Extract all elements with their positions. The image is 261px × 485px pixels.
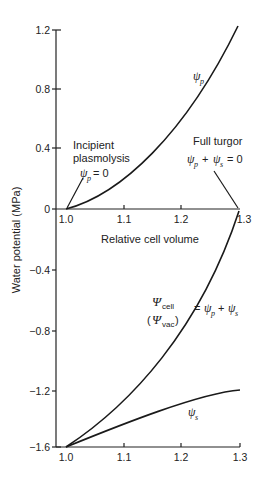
y-tick-neg1.6: −1.6 — [29, 441, 50, 453]
x-tick-mid-1.0: 1.0 — [59, 213, 74, 225]
psi-p-label: ψ p — [193, 69, 204, 86]
incipient-equation: ψ p = 0 — [80, 166, 109, 183]
svg-text:+: + — [202, 153, 208, 165]
x-tick-mid-1.3: 1.3 — [237, 213, 252, 225]
x-tick-bottom-1.2: 1.2 — [174, 451, 189, 463]
psi-s-label: ψ s — [188, 405, 198, 422]
x-tick-mid-1.1: 1.1 — [117, 213, 132, 225]
svg-text:p: p — [199, 77, 204, 86]
svg-text:p: p — [86, 174, 91, 183]
x-tick-bottom-1.1: 1.1 — [117, 451, 132, 463]
full-turgor-label: Full turgor — [193, 135, 243, 147]
incipient-label-line1: Incipient — [73, 139, 114, 151]
x-tick-mid-1.2: 1.2 — [174, 213, 189, 225]
x-tick-labels-bottom: 1.0 1.1 1.2 1.3 — [59, 451, 248, 463]
svg-text:s: s — [220, 160, 223, 169]
y-tick-neg0.8: −0.8 — [29, 325, 50, 337]
x-tick-bottom-1.3: 1.3 — [233, 451, 248, 463]
x-axis-bottom — [56, 443, 240, 447]
svg-text:= 0: = 0 — [227, 153, 243, 165]
full-turgor-pointer — [214, 171, 238, 208]
close-paren: ) — [175, 314, 179, 326]
svg-text:p: p — [193, 160, 198, 169]
y-tick-1.2: 1.2 — [35, 24, 50, 36]
svg-text:vac: vac — [162, 320, 174, 329]
psi-s-curve — [66, 390, 240, 447]
full-turgor-equation: ψ p + ψ s = 0 — [187, 152, 243, 169]
y-tick-labels: 1.2 0.8 0.4 0 −0.4 −0.8 −1.2 −1.6 — [29, 24, 50, 453]
psi-cell-equation: = ψ p + ψ s — [194, 301, 238, 318]
psi-cell-curve — [66, 211, 239, 447]
incipient-label-line2: plasmolysis — [73, 152, 130, 164]
x-tick-bottom-1.0: 1.0 — [59, 451, 74, 463]
svg-text:s: s — [195, 413, 198, 422]
x-axis-zero — [56, 205, 240, 209]
svg-text:=: = — [194, 302, 200, 314]
y-tick-0: 0 — [44, 203, 50, 215]
svg-text:+: + — [218, 302, 224, 314]
svg-text:= 0: = 0 — [93, 167, 109, 179]
x-axis-label: Relative cell volume — [101, 233, 199, 245]
svg-text:s: s — [235, 309, 238, 318]
psi-cell-label: Ψ cell ( Ψ vac ) — [147, 294, 179, 329]
svg-text:cell: cell — [162, 302, 174, 311]
y-axis — [52, 30, 61, 447]
y-tick-0.4: 0.4 — [35, 142, 50, 154]
y-tick-neg1.2: −1.2 — [29, 385, 50, 397]
svg-text:p: p — [210, 309, 215, 318]
y-tick-neg0.4: −0.4 — [29, 264, 50, 276]
y-tick-0.8: 0.8 — [35, 83, 50, 95]
water-potential-chart: 1.2 0.8 0.4 0 −0.4 −0.8 −1.2 −1.6 Water … — [0, 0, 261, 485]
x-tick-labels-zero: 1.0 1.1 1.2 1.3 — [59, 213, 252, 225]
open-paren: ( — [147, 314, 151, 326]
y-axis-label: Water potential (MPa) — [10, 187, 22, 294]
psi-p-curve — [66, 26, 238, 209]
